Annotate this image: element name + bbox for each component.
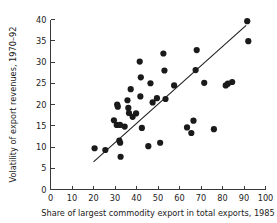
scatter-point	[188, 130, 194, 136]
x-tick-label: 100	[258, 193, 274, 203]
y-tick-label: 20	[36, 100, 46, 110]
chart-canvas: 0510152025303540 0102030405060708090100 …	[0, 0, 277, 223]
scatter-point	[154, 95, 160, 101]
scatter-point	[184, 124, 190, 130]
scatter-point	[117, 140, 123, 146]
scatter-point	[193, 67, 199, 73]
scatter-point	[245, 38, 251, 44]
y-tick-label: 40	[36, 15, 46, 25]
y-axis-title: Volatility of export revenues, 1970–92	[8, 27, 18, 183]
x-axis: 0102030405060708090100	[48, 186, 273, 203]
scatter-point	[211, 126, 217, 132]
y-tick-label: 10	[36, 142, 46, 152]
scatter-point	[157, 140, 163, 146]
scatter-point	[122, 124, 128, 130]
x-tick-label: 40	[131, 193, 141, 203]
x-tick-label: 50	[153, 193, 163, 203]
scatter-point	[229, 79, 235, 85]
y-tick-label: 15	[36, 121, 46, 131]
scatter-point	[124, 97, 130, 103]
scatter-point	[91, 145, 97, 151]
scatter-point	[145, 143, 151, 149]
x-tick-label: 20	[88, 193, 98, 203]
scatter-point	[201, 80, 207, 86]
x-tick-label: 80	[217, 193, 227, 203]
x-tick-label: 90	[239, 193, 249, 203]
scatter-point	[138, 74, 144, 80]
scatter-point	[244, 18, 250, 24]
x-axis-title: Share of largest commodity export in tot…	[41, 208, 275, 218]
x-tick-label: 60	[174, 193, 184, 203]
scatter-point	[133, 110, 139, 116]
x-tick-label: 10	[67, 193, 77, 203]
y-tick-label: 30	[36, 57, 46, 67]
y-tick-label: 5	[41, 163, 46, 173]
y-tick-label: 25	[36, 78, 46, 88]
scatter-point	[137, 93, 143, 99]
scatter-point	[102, 147, 108, 153]
scatter-point	[137, 58, 143, 64]
y-axis: 0510152025303540	[36, 15, 54, 195]
x-tick-label: 30	[110, 193, 120, 203]
x-tick-label: 0	[48, 193, 53, 203]
scatter-point	[128, 86, 134, 92]
data-points	[91, 18, 251, 160]
scatter-point	[194, 47, 200, 53]
scatter-point	[160, 50, 166, 56]
scatter-point	[117, 154, 123, 160]
y-tick-label: 0	[41, 185, 46, 195]
scatter-point	[147, 80, 153, 86]
scatter-point	[171, 82, 177, 88]
scatter-point	[139, 125, 145, 131]
scatter-point	[190, 118, 196, 124]
scatter-plot-figure: 0510152025303540 0102030405060708090100 …	[0, 0, 277, 223]
scatter-point	[115, 104, 121, 110]
y-tick-label: 35	[36, 36, 46, 46]
scatter-point	[162, 96, 168, 102]
scatter-point	[161, 67, 167, 73]
x-tick-label: 70	[196, 193, 206, 203]
